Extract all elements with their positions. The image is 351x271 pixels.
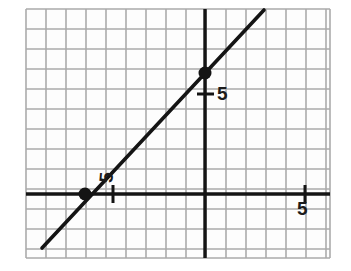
coordinate-graph-figure: 5 5 5 — [0, 0, 351, 271]
grid-background — [26, 9, 330, 258]
data-point-y-intercept — [199, 67, 212, 80]
x-axis-tick-label-5: 5 — [297, 199, 308, 218]
coordinate-graph-svg — [0, 0, 351, 271]
y-axis-tick-label-5: 5 — [217, 84, 228, 103]
data-point-x-intercept — [79, 188, 92, 201]
x-axis-tick-label-rotated-5: 5 — [96, 171, 116, 183]
